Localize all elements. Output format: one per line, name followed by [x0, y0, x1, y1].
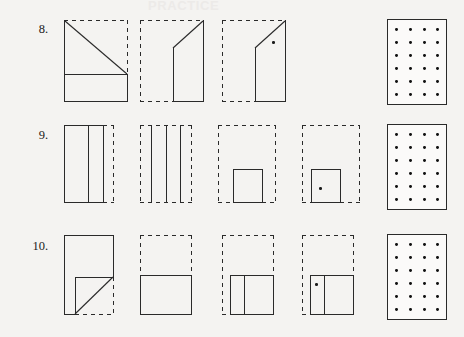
dashed-bottom-left — [218, 202, 234, 203]
figure-9-4 — [302, 125, 360, 203]
figure-9-2 — [140, 125, 192, 203]
dashed-bottom-right — [340, 202, 360, 203]
dashed-right-edge — [113, 125, 114, 203]
solid-left-edge — [140, 275, 141, 315]
figure-8-2 — [140, 20, 204, 102]
faint-page-header: PRACTICE — [148, 0, 219, 13]
inner-rect-left — [311, 169, 312, 203]
answer-grid-8 — [387, 19, 447, 105]
dashed-top-edge — [302, 125, 360, 126]
slanted-fold-line — [140, 20, 204, 102]
figure-8-3 — [222, 20, 286, 102]
dashed-left-edge — [302, 125, 303, 203]
solid-right-edge — [273, 275, 274, 315]
inner-rect-left — [233, 169, 234, 203]
solid-right-edge — [191, 275, 192, 315]
answer-grid-9 — [387, 124, 447, 210]
figure-9-3 — [218, 125, 276, 203]
crease-line-2 — [103, 125, 104, 203]
inner-rect-top — [233, 169, 263, 170]
dashed-right-edge — [191, 125, 192, 203]
dashed-right-edge-upper — [273, 235, 274, 276]
inner-rect-bottom — [233, 202, 263, 203]
horizontal-fold-edge — [140, 275, 192, 276]
dashed-right-edge — [275, 125, 276, 203]
solid-top-edge — [64, 125, 104, 126]
solid-left-edge — [310, 275, 311, 315]
figure-8-1 — [64, 20, 128, 102]
dashed-top-edge — [140, 235, 192, 236]
dashed-top-edge — [218, 125, 276, 126]
dashed-top-stub — [103, 125, 114, 126]
dashed-left-edge — [302, 235, 303, 315]
crease-line-2 — [166, 125, 167, 203]
crease-line-1 — [151, 125, 152, 203]
dashed-right-edge — [191, 235, 192, 276]
solid-left-edge — [230, 275, 231, 315]
solid-bottom-edge — [64, 202, 104, 203]
problem-row-9: 9. — [0, 122, 464, 212]
inner-rect-bottom — [311, 202, 341, 203]
dashed-left-edge — [218, 125, 219, 203]
diagonal-fold-line — [64, 235, 114, 315]
inner-rect-right — [340, 169, 341, 203]
horizontal-fold-edge — [310, 275, 354, 276]
dashed-bottom-left — [302, 202, 311, 203]
answer-grid-10 — [387, 234, 447, 320]
reference-dot — [319, 187, 322, 190]
solid-bottom-edge — [310, 314, 354, 315]
inner-rect-right — [262, 169, 263, 203]
vertical-crease — [324, 275, 325, 315]
horizontal-fold-edge — [230, 275, 274, 276]
dashed-right-edge — [359, 125, 360, 203]
figure-10-4 — [302, 235, 354, 315]
dashed-top-edge — [302, 235, 354, 236]
dashed-bottom-stub — [103, 202, 114, 203]
figure-10-3 — [222, 235, 274, 315]
inner-rect-top — [311, 169, 341, 170]
crease-line-1 — [88, 125, 89, 203]
solid-right-edge — [353, 275, 354, 315]
solid-bottom-edge — [140, 314, 192, 315]
figure-9-1 — [64, 125, 114, 203]
reference-dot — [272, 41, 275, 44]
dashed-left-edge — [140, 125, 141, 203]
reference-dot — [315, 283, 318, 286]
figure-10-1 — [64, 235, 114, 315]
diagonal-fold-line — [64, 20, 128, 102]
problem-row-8: 8. — [0, 14, 464, 109]
dashed-top-edge — [222, 235, 274, 236]
dashed-left-edge — [222, 235, 223, 315]
crease-line-3 — [180, 125, 181, 203]
slanted-fold-line — [222, 20, 286, 102]
dashed-bottom-right — [262, 202, 276, 203]
worksheet-page: PRACTICE 8. — [0, 0, 464, 337]
vertical-crease — [244, 275, 245, 315]
dashed-left-edge — [140, 235, 141, 276]
row-number-10: 10. — [12, 239, 48, 254]
row-number-9: 9. — [18, 128, 48, 143]
row-number-8: 8. — [18, 22, 48, 37]
solid-left-edge — [64, 125, 65, 203]
solid-bottom-edge — [230, 314, 274, 315]
figure-10-2 — [140, 235, 192, 315]
problem-row-10: 10. — [0, 232, 464, 327]
dashed-right-edge-upper — [353, 235, 354, 276]
